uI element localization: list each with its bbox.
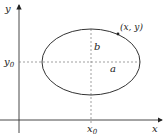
x0-label: x0: [87, 123, 98, 135]
b-label: b: [94, 41, 100, 52]
point-label: (x, y): [120, 22, 143, 32]
a-label: a: [110, 63, 116, 74]
y-axis-label: y: [4, 3, 11, 14]
x-axis-label: x: [152, 123, 158, 134]
y0-label: y0: [3, 56, 15, 69]
ellipse-diagram: y x y0 x0 b a (x, y): [0, 0, 165, 135]
point-xy: [117, 33, 120, 36]
